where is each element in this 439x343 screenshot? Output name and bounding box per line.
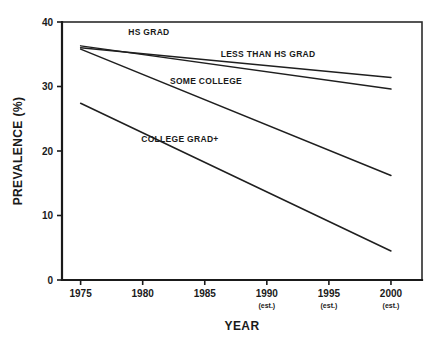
series-line [81,103,391,251]
x-axis-title: YEAR [225,319,260,333]
x-tick-label: 1980 [132,288,155,299]
series-inline-label: HS GRAD [128,27,169,37]
y-tick-label: 10 [42,210,54,221]
series-inline-label: LESS THAN HS GRAD [221,49,316,59]
series-inline-label: SOME COLLEGE [170,76,242,86]
prevalence-by-education-line-chart: 010203040 1975198019851990(est.)1995(est… [0,0,439,343]
x-tick-label: 1975 [69,288,92,299]
y-tick-label: 0 [47,275,53,286]
data-series-labels: LESS THAN HS GRADHS GRADSOME COLLEGECOLL… [128,27,315,144]
x-tick-estimate-note: (est.) [258,302,275,310]
y-tick-label: 40 [42,17,54,28]
x-tick-label: 2000 [380,288,403,299]
x-tick-estimate-note: (est.) [321,302,338,310]
series-inline-label: COLLEGE GRAD+ [141,134,218,144]
chart-container: 010203040 1975198019851990(est.)1995(est… [0,0,439,343]
plot-area-border [62,22,422,280]
y-axis-ticks: 010203040 [42,17,62,286]
plot-frame [62,22,422,280]
y-axis-title: PREVALENCE (%) [11,97,25,206]
x-tick-estimate-note: (est.) [383,302,400,310]
x-axis-ticks: 1975198019851990(est.)1995(est.)2000(est… [69,280,402,310]
x-tick-label: 1990 [256,288,279,299]
y-tick-label: 20 [42,146,54,157]
y-tick-label: 30 [42,81,54,92]
x-tick-label: 1985 [194,288,217,299]
x-tick-label: 1995 [318,288,341,299]
